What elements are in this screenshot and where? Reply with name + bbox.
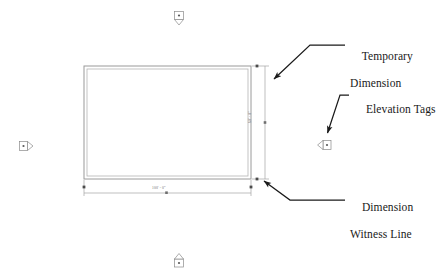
leader-dimension-witness-line (264, 181, 345, 200)
horizontal-dimension-group[interactable] (83, 180, 253, 196)
elevation-tag-north[interactable] (175, 12, 184, 26)
dimension-tick-left (83, 186, 86, 189)
leader-temporary-dimension (274, 45, 345, 79)
wall-outline-group (84, 66, 251, 179)
dimension-tick-top (256, 65, 259, 68)
dimension-drag-grip-vertical[interactable] (264, 121, 267, 124)
wall-inner-rect (87, 69, 248, 176)
elevation-tag-south[interactable] (175, 254, 184, 268)
callout-dimension-witness-line: Dimension Witness Line (350, 187, 413, 268)
elevation-tag-east[interactable] (318, 141, 331, 150)
horizontal-dimension-label[interactable]: 100' - 0" (152, 186, 166, 190)
wall-outer-rect (84, 66, 251, 179)
callout-dimension-witness-line-line2: Witness Line (350, 228, 413, 242)
callout-temporary-dimension-line2: Dimension (350, 77, 413, 91)
callout-dimension-witness-line-line1: Dimension (362, 201, 413, 213)
elevation-tag-west[interactable] (20, 142, 34, 151)
callout-elevation-tags: Elevation Tags (354, 89, 436, 130)
vertical-dimension-group[interactable] (252, 65, 269, 181)
revit-plan-canvas: 100' - 0" 60' - 0" Temporary Dimension E… (0, 0, 448, 279)
callout-temporary-dimension-line1: Temporary (362, 50, 413, 62)
dimension-drag-grip-horizontal[interactable] (165, 191, 168, 194)
dimension-tick-bottom (256, 178, 259, 181)
dimension-tick-right (250, 186, 253, 189)
vertical-dimension-label[interactable]: 60' - 0" (248, 111, 252, 123)
leader-elevation-tags (328, 95, 350, 133)
callout-elevation-tags-line1: Elevation Tags (366, 103, 436, 115)
